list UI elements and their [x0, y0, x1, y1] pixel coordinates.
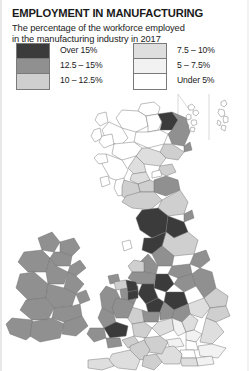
region-west-sussex — [180, 358, 198, 366]
choropleth-map — [2, 92, 249, 371]
legend-swatch-7-5-to-10 — [134, 44, 166, 59]
legend-swatch-5-to-7-5 — [134, 59, 166, 74]
legend-swatch-stack-right — [133, 43, 167, 90]
region-swansea — [106, 338, 122, 348]
region-shetland-a — [221, 100, 227, 107]
legend-swatch-10-to-12-5 — [17, 74, 49, 89]
legend-label-7-5-to-10: 7.5 – 10% — [177, 43, 249, 58]
region-worcestershire — [142, 310, 160, 322]
infographic-page: EMPLOYMENT IN MANUFACTURING The percenta… — [0, 0, 249, 371]
region-western-isles-n — [95, 112, 108, 126]
legend-swatch-under-5 — [134, 74, 166, 89]
region-hertfordshire — [186, 330, 202, 342]
legend-label-10-to-12-5: 10 – 12.5% — [60, 73, 140, 88]
region-cork — [30, 318, 64, 342]
page-title: EMPLOYMENT IN MANUFACTURING — [12, 7, 239, 20]
region-pembrokeshire — [87, 328, 106, 342]
subtitle-line-1: The percentage of the workforce employed — [12, 23, 185, 33]
legend-labels-right: 7.5 – 10% 5 – 7.5% Under 5% — [177, 43, 249, 88]
region-shetland-d — [217, 120, 221, 126]
region-berkshire — [166, 338, 184, 348]
legend-swatch-12-5-to-15 — [17, 59, 49, 74]
region-sligo-mayo — [18, 250, 50, 272]
region-orkney-d — [191, 120, 197, 126]
region-dublin — [76, 290, 90, 304]
legend-label-under-5: Under 5% — [177, 73, 249, 88]
region-surrey — [180, 350, 196, 358]
region-mull — [94, 154, 108, 164]
legend-swatch-stack-left — [16, 43, 50, 90]
inset-shetland — [217, 100, 228, 131]
region-shetland-c — [223, 116, 228, 123]
region-orkney-a — [188, 104, 195, 110]
region-east-sussex — [196, 356, 214, 366]
region-shetland-e — [221, 125, 226, 131]
region-conwy — [114, 280, 128, 290]
region-donegal — [38, 232, 60, 252]
map-legend: Over 15% 12.5 – 15% 10 – 12.5% 7.5 – 10%… — [2, 43, 249, 91]
legend-label-12-5-to-15: 12.5 – 15% — [60, 58, 140, 73]
legend-labels-left: Over 15% 12.5 – 15% 10 – 12.5% — [60, 43, 140, 88]
uk-ireland-map-svg — [2, 92, 249, 371]
region-tyne-and-wear — [184, 210, 194, 222]
inset-corner-line — [178, 94, 188, 108]
header: EMPLOYMENT IN MANUFACTURING The percenta… — [2, 0, 247, 45]
region-orkney-c — [186, 114, 191, 120]
region-orkney-f — [190, 127, 195, 132]
region-orkney-b — [193, 110, 199, 116]
region-gloucestershire — [132, 322, 152, 338]
region-galway — [16, 272, 48, 300]
legend-label-over-15: Over 15% — [60, 43, 140, 58]
region-essex — [200, 318, 224, 344]
region-merseyside — [128, 260, 144, 272]
legend-swatch-over-15 — [17, 44, 49, 59]
region-badenoch — [134, 130, 168, 148]
region-isle-of-man — [122, 240, 132, 251]
region-derbyshire — [154, 274, 174, 292]
map-ireland — [6, 232, 90, 342]
legend-label-5-to-7-5: 5 – 7.5% — [177, 58, 249, 73]
region-islay — [100, 176, 110, 187]
region-clare-limerick — [20, 298, 54, 320]
region-wrexham — [128, 290, 138, 300]
region-edinburgh — [152, 170, 162, 178]
